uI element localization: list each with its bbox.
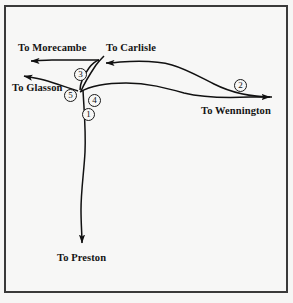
node-marker-1: 1 (82, 108, 95, 121)
label-to-wennington: To Wennington (201, 105, 271, 116)
label-to-glasson: To Glasson (12, 82, 63, 93)
road-carlisle-inbound (106, 61, 272, 97)
node-marker-3: 3 (74, 68, 87, 81)
label-to-preston: To Preston (57, 252, 106, 263)
node-marker-4: 4 (88, 94, 101, 107)
label-to-carlisle: To Carlisle (106, 42, 156, 53)
diagram-page: To Morecambe To Carlisle To Glasson To W… (0, 0, 293, 303)
node-marker-2: 2 (234, 79, 247, 92)
label-to-morecambe: To Morecambe (18, 42, 87, 53)
road-morecambe (31, 60, 99, 61)
node-marker-5: 5 (64, 89, 77, 102)
